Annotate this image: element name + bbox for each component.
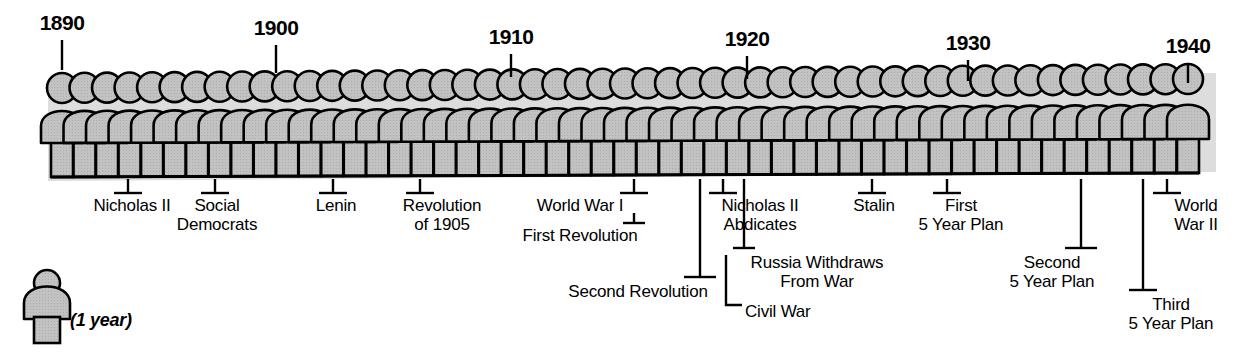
year-label-1920: 1920 xyxy=(725,28,770,49)
event-label-russia-withdraws-from-war: Russia WithdrawsFrom War xyxy=(751,253,884,291)
event-label-line: Revolution xyxy=(403,196,481,215)
event-label-line: Social xyxy=(177,196,257,215)
event-label-line: War II xyxy=(1174,215,1218,234)
event-label-line: Third xyxy=(1129,295,1214,314)
event-label-first-revolution: First Revolution xyxy=(523,226,638,245)
event-label-line: 5 Year Plan xyxy=(1129,314,1214,333)
year-label-1900: 1900 xyxy=(254,17,299,38)
timeline-graphic xyxy=(0,0,1245,364)
event-label-line: of 1905 xyxy=(403,215,481,234)
timeline-figure: 189019001910192019301940 Nicholas IISoci… xyxy=(0,0,1245,364)
event-label-line: 5 Year Plan xyxy=(919,215,1004,234)
event-label-nicholas-ii-abdicates: Nicholas IIAbdicates xyxy=(721,196,798,234)
event-label-first-5-year-plan: First5 Year Plan xyxy=(919,196,1004,234)
event-label-nicholas-ii: Nicholas II xyxy=(93,196,170,215)
legend-figure-icon xyxy=(24,270,70,343)
event-label-third-5-year-plan: Third5 Year Plan xyxy=(1129,295,1214,333)
event-label-line: Nicholas II xyxy=(93,196,170,215)
event-label-line: Abdicates xyxy=(721,215,798,234)
event-label-second-5-year-plan: Second5 Year Plan xyxy=(1010,253,1095,291)
year-label-1940: 1940 xyxy=(1166,35,1211,56)
year-label-1930: 1930 xyxy=(946,32,991,53)
event-label-line: First Revolution xyxy=(523,226,638,245)
legend-unit-note: (1 year) xyxy=(70,310,132,331)
event-label-second-revolution: Second Revolution xyxy=(568,282,707,301)
event-label-line: Russia Withdraws xyxy=(751,253,884,272)
event-label-line: Nicholas II xyxy=(721,196,798,215)
event-label-line: World War I xyxy=(537,196,624,215)
event-label-lenin: Lenin xyxy=(316,196,357,215)
pictograph-figures xyxy=(41,64,1209,177)
event-label-line: Democrats xyxy=(177,215,257,234)
event-label-world-war-i: World War I xyxy=(537,196,624,215)
event-label-line: Lenin xyxy=(316,196,357,215)
year-label-1890: 1890 xyxy=(40,12,85,33)
event-label-line: Second Revolution xyxy=(568,282,707,301)
year-label-1910: 1910 xyxy=(489,26,534,47)
event-label-line: World xyxy=(1174,196,1218,215)
event-label-civil-war: Civil War xyxy=(745,302,811,321)
event-label-social-democrats: SocialDemocrats xyxy=(177,196,257,234)
event-label-line: Civil War xyxy=(745,302,811,321)
event-label-line: From War xyxy=(751,272,884,291)
event-label-revolution-of-1905: Revolutionof 1905 xyxy=(403,196,481,234)
event-label-line: Second xyxy=(1010,253,1095,272)
event-label-line: First xyxy=(919,196,1004,215)
event-label-world-war-ii: WorldWar II xyxy=(1174,196,1218,234)
event-label-line: Stalin xyxy=(853,196,894,215)
event-label-stalin: Stalin xyxy=(853,196,894,215)
event-label-line: 5 Year Plan xyxy=(1010,272,1095,291)
